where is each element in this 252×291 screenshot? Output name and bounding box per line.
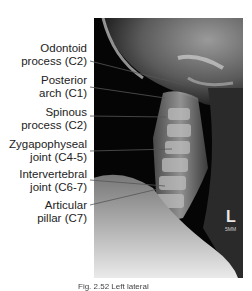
- label-line: Posterior: [39, 74, 87, 87]
- label-line: joint (C6-7): [19, 181, 87, 194]
- label-posterior-arch: Posterior arch (C1): [39, 74, 87, 100]
- label-line: Intervertebral: [19, 168, 87, 181]
- label-line: Zygapophyseal: [9, 138, 87, 151]
- label-zygapophyseal-joint: Zygapophyseal joint (C4-5): [9, 138, 87, 164]
- label-line: process (C2): [21, 55, 87, 68]
- scale-marker: 5MM: [225, 226, 236, 232]
- label-line: Odontoid: [21, 42, 87, 55]
- label-articular-pillar: Articular pillar (C7): [37, 199, 87, 225]
- label-line: pillar (C7): [37, 212, 87, 225]
- label-line: joint (C4-5): [9, 151, 87, 164]
- label-line: arch (C1): [39, 87, 87, 100]
- label-spinous-process: Spinous process (C2): [21, 106, 87, 132]
- label-intervertebral-joint: Intervertebral joint (C6-7): [19, 168, 87, 194]
- figure-caption: Fig. 2.52 Left lateral: [78, 282, 149, 291]
- label-line: Articular: [37, 199, 87, 212]
- label-odontoid-process: Odontoid process (C2): [21, 42, 87, 68]
- label-line: process (C2): [21, 119, 87, 132]
- side-marker: L: [226, 208, 236, 226]
- label-line: Spinous: [21, 106, 87, 119]
